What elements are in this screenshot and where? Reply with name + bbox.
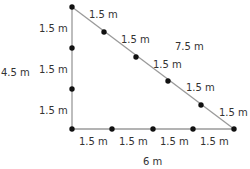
vertical-total-label: 4.5 m bbox=[1, 67, 30, 78]
horizontal-division-dot bbox=[150, 126, 155, 131]
hypotenuse-division-dot bbox=[101, 29, 106, 34]
horizontal-division-dot bbox=[109, 126, 114, 131]
vertical-segment-label: 1.5 m bbox=[39, 64, 68, 75]
hypotenuse-total-label: 7.5 m bbox=[175, 41, 204, 52]
horizontal-segment-label: 1.5 m bbox=[160, 136, 189, 147]
hypotenuse-division-dot bbox=[133, 54, 138, 59]
vertex-bottom-right-dot bbox=[231, 126, 236, 131]
right-triangle-diagram: 4.5 m 1.5 m 1.5 m 1.5 m 1.5 m 1.5 m 1.5 … bbox=[0, 0, 250, 169]
horizontal-segment-label: 1.5 m bbox=[79, 136, 108, 147]
horizontal-segment-label: 1.5 m bbox=[200, 136, 229, 147]
horizontal-division-dot bbox=[190, 126, 195, 131]
hypotenuse-segment-label: 1.5 m bbox=[121, 34, 150, 45]
vertical-division-dot bbox=[69, 45, 74, 50]
hypotenuse-segment-label: 1.5 m bbox=[186, 82, 215, 93]
horizontal-segment-label: 1.5 m bbox=[119, 136, 148, 147]
vertex-top-dot bbox=[69, 4, 74, 9]
hypotenuse-division-dot bbox=[198, 102, 203, 107]
vertical-segment-label: 1.5 m bbox=[39, 105, 68, 116]
hypotenuse-segment-label: 1.5 m bbox=[153, 59, 182, 70]
horizontal-total-label: 6 m bbox=[143, 156, 162, 167]
vertical-segment-label: 1.5 m bbox=[39, 23, 68, 34]
vertical-division-dot bbox=[69, 86, 74, 91]
hypotenuse-division-dot bbox=[165, 78, 170, 83]
hypotenuse-segment-label: 1.5 m bbox=[219, 107, 248, 118]
hypotenuse-segment-label: 1.5 m bbox=[89, 9, 118, 20]
vertex-bottom-left-dot bbox=[69, 126, 74, 131]
